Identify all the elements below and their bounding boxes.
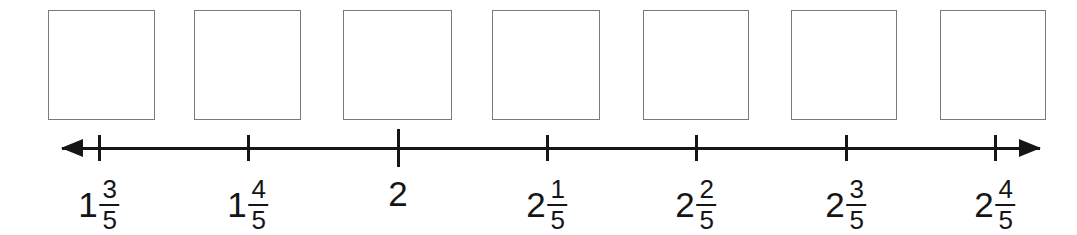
arrow-left-icon: [61, 139, 83, 157]
answer-box-6[interactable]: [791, 10, 897, 120]
fraction-denominator: 5: [101, 206, 119, 234]
answer-box-7[interactable]: [940, 10, 1046, 120]
tick-label-7: 245: [974, 176, 1015, 233]
answer-box-1[interactable]: [48, 10, 155, 120]
tick-label-4: 215: [526, 176, 567, 233]
tick-mark-2: [247, 135, 250, 161]
fraction-numerator: 3: [101, 176, 119, 204]
label-fraction: 35: [847, 176, 867, 233]
tick-mark-6: [845, 135, 848, 161]
label-whole-number: 1: [227, 187, 246, 222]
label-whole-number: 1: [78, 187, 97, 222]
tick-mark-3: [397, 129, 400, 167]
fraction-denominator: 5: [250, 206, 268, 234]
label-fraction: 35: [100, 176, 120, 233]
fraction-denominator: 5: [698, 206, 716, 234]
label-fraction: 45: [996, 176, 1016, 233]
fraction-numerator: 4: [250, 176, 268, 204]
label-fraction: 25: [697, 176, 717, 233]
tick-mark-4: [546, 135, 549, 161]
answer-box-3[interactable]: [343, 10, 452, 120]
tick-label-1: 135: [78, 176, 119, 233]
tick-mark-5: [695, 135, 698, 161]
fraction-denominator: 5: [549, 206, 567, 234]
fraction-numerator: 3: [848, 176, 866, 204]
arrow-right-icon: [1019, 139, 1041, 157]
tick-mark-1: [98, 135, 101, 161]
tick-label-2: 145: [227, 176, 268, 233]
label-fraction: 45: [249, 176, 269, 233]
fraction-denominator: 5: [848, 206, 866, 234]
number-line-axis: [62, 147, 1040, 150]
fraction-numerator: 2: [698, 176, 716, 204]
answer-box-2[interactable]: [194, 10, 301, 120]
fraction-numerator: 1: [549, 176, 567, 204]
number-line-worksheet: 1351452215225235245: [0, 0, 1077, 235]
label-whole-number: 2: [675, 187, 694, 222]
answer-box-4[interactable]: [492, 10, 600, 120]
label-whole-number: 2: [825, 187, 844, 222]
label-whole-number: 2: [974, 187, 993, 222]
label-whole-number: 2: [526, 187, 545, 222]
label-whole-number: 2: [388, 176, 407, 211]
tick-mark-7: [994, 135, 997, 161]
answer-box-5[interactable]: [643, 10, 749, 120]
tick-label-3: 2: [388, 176, 407, 211]
fraction-numerator: 4: [997, 176, 1015, 204]
fraction-denominator: 5: [997, 206, 1015, 234]
label-fraction: 15: [548, 176, 568, 233]
tick-label-5: 225: [675, 176, 716, 233]
tick-label-6: 235: [825, 176, 866, 233]
